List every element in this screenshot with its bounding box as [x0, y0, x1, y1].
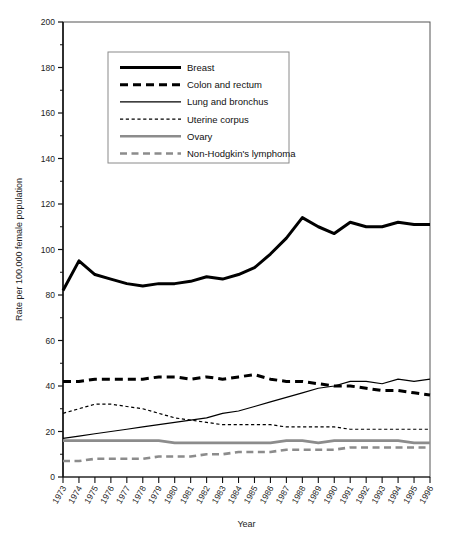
x-axis-tick-label: 1986: [258, 484, 276, 506]
y-axis-tick-label: 80: [46, 290, 56, 300]
x-axis-tick-label: 1987: [274, 484, 292, 506]
y-axis-tick-label: 40: [46, 381, 56, 391]
x-axis-tick-label: 1984: [226, 484, 244, 506]
x-axis-tick-label: 1992: [353, 484, 371, 506]
x-axis-tick-label: 1978: [130, 484, 148, 506]
legend-label-1: Colon and rectum: [187, 79, 262, 90]
legend-label-3: Uterine corpus: [187, 114, 249, 125]
x-axis-tick-label: 1991: [337, 484, 355, 506]
legend-label-5: Non-Hodgkin's lymphoma: [187, 148, 296, 159]
series-line-0: [63, 218, 430, 291]
y-axis-tick-label: 160: [41, 108, 55, 118]
x-axis-tick-label: 1981: [178, 484, 196, 506]
x-axis-tick-label: 1975: [82, 484, 100, 506]
x-axis-tick-label: 1976: [98, 484, 116, 506]
x-axis-tick-label: 1985: [242, 484, 260, 506]
x-axis-tick-label: 1983: [210, 484, 228, 506]
x-axis-tick-label: 1990: [321, 484, 339, 506]
y-axis-tick-label: 120: [41, 199, 55, 209]
series-line-3: [63, 404, 430, 429]
chart-canvas: 020406080100120140160180200Rate per 100,…: [0, 0, 452, 542]
x-axis-tick-label: 1995: [401, 484, 419, 506]
y-axis-tick-label: 60: [46, 336, 56, 346]
y-axis-title: Rate per 100,000 female population: [14, 178, 24, 321]
legend-label-4: Ovary: [187, 131, 213, 142]
x-axis-tick-label: 1973: [50, 484, 68, 506]
y-axis-tick-label: 0: [50, 472, 55, 482]
x-axis-tick-label: 1977: [114, 484, 132, 506]
x-axis-tick-label: 1979: [146, 484, 164, 506]
x-axis-tick-label: 1980: [162, 484, 180, 506]
series-line-1: [63, 375, 430, 395]
x-axis-tick-label: 1989: [305, 484, 323, 506]
y-axis-tick-label: 180: [41, 63, 55, 73]
y-axis-tick-label: 200: [41, 17, 55, 27]
x-axis-tick-label: 1974: [66, 484, 84, 506]
x-axis-tick-label: 1994: [385, 484, 403, 506]
x-axis-title: Year: [237, 519, 255, 529]
y-axis-tick-label: 100: [41, 245, 55, 255]
y-axis-tick-label: 140: [41, 154, 55, 164]
legend-label-0: Breast: [187, 62, 215, 73]
x-axis-tick-label: 1993: [369, 484, 387, 506]
x-axis-tick-label: 1982: [194, 484, 212, 506]
x-axis-tick-label: 1988: [289, 484, 307, 506]
series-line-5: [63, 447, 430, 461]
cancer-incidence-line-chart: 020406080100120140160180200Rate per 100,…: [0, 0, 452, 542]
legend-label-2: Lung and bronchus: [187, 96, 269, 107]
y-axis-tick-label: 20: [46, 427, 56, 437]
series-line-4: [63, 441, 430, 443]
x-axis-tick-label: 1996: [417, 484, 435, 506]
